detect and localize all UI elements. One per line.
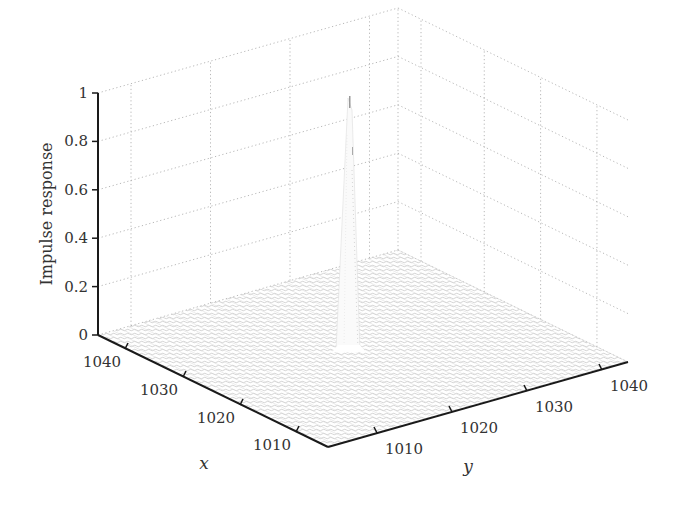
z-tick-0.2: 0.2: [64, 278, 88, 296]
z-tick-0.4: 0.4: [64, 229, 88, 247]
z-ticks: 0 0.2 0.4 0.6 0.8 1: [64, 84, 98, 344]
surface-plot: 0 0.2 0.4 0.6 0.8 1 1010 1020 1030 1040 …: [0, 0, 681, 505]
z-tick-0.6: 0.6: [64, 181, 88, 199]
x-tick-1010: 1010: [253, 436, 291, 454]
x-tick-1040: 1040: [83, 353, 121, 371]
z-tick-0: 0: [78, 326, 88, 344]
z-tick-0.8: 0.8: [64, 132, 88, 150]
y-tick-1040: 1040: [610, 377, 648, 395]
y-tick-1030: 1030: [535, 398, 573, 416]
x-tick-1020: 1020: [197, 409, 235, 427]
z-tick-1: 1: [78, 84, 88, 102]
y-tick-1020: 1020: [460, 419, 498, 437]
x-tick-1030: 1030: [140, 381, 178, 399]
y-axis-label: y: [462, 456, 473, 476]
y-tick-1010: 1010: [385, 440, 423, 458]
z-axis-label: Impulse response: [37, 142, 56, 285]
x-axis-label: x: [199, 453, 209, 473]
